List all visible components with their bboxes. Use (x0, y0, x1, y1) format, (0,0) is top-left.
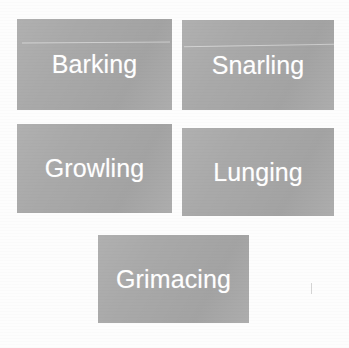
behavior-box-growling[interactable]: Growling (17, 124, 172, 213)
behavior-box-label: Grimacing (116, 267, 231, 292)
behavior-box-label: Growling (45, 156, 144, 181)
behavior-box-snarling[interactable]: Snarling (182, 20, 334, 110)
behavior-box-label: Snarling (212, 53, 305, 78)
behavior-box-lunging[interactable]: Lunging (182, 128, 334, 216)
behavior-box-barking[interactable]: Barking (17, 19, 172, 110)
behavior-box-label: Barking (52, 52, 137, 77)
behavior-box-grimacing[interactable]: Grimacing (98, 235, 249, 323)
behavior-box-diagram: Barking Snarling Growling Lunging Grimac… (0, 0, 349, 348)
behavior-box-label: Lunging (213, 160, 303, 185)
scan-speck-artifact (311, 283, 312, 294)
